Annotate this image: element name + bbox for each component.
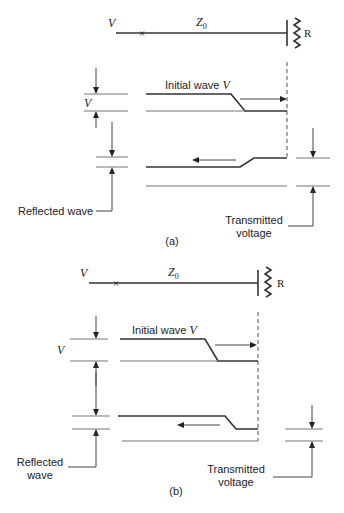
load-resistor-label: R xyxy=(277,277,285,289)
arrow-down-icon xyxy=(309,422,315,429)
arrow-down-icon xyxy=(93,87,99,94)
impedance-label: Z0 xyxy=(196,15,207,31)
transmitted-voltage-label-line2: voltage xyxy=(236,227,271,239)
resistor-icon xyxy=(294,18,300,48)
initial-wave-front xyxy=(120,339,258,361)
arrow-right-icon xyxy=(250,342,257,348)
reflected-leader-line xyxy=(96,172,112,211)
initial-wave-label: Initial wave V xyxy=(165,78,231,92)
v-magnitude-label: V xyxy=(84,96,93,110)
initial-wave-front xyxy=(146,94,287,111)
arrow-down-icon xyxy=(109,150,115,157)
initial-wave: Initial wave V xyxy=(146,78,287,111)
v-magnitude-label: V xyxy=(57,343,66,357)
reflected-wave-marker: Reflected wave xyxy=(18,122,128,217)
reflected-wave-label: Reflected wave xyxy=(18,205,93,217)
reflected-wave-label-line2: wave xyxy=(26,469,53,481)
transmitted-voltage-marker: Transmitted voltage xyxy=(225,128,330,239)
arrow-down-icon xyxy=(93,409,99,416)
source-voltage-label: V xyxy=(108,16,117,30)
arrow-up-icon xyxy=(93,111,99,118)
panel-caption-b: (b) xyxy=(169,485,182,497)
transmitted-voltage-marker: Transmitted voltage xyxy=(207,405,323,488)
resistor-icon xyxy=(265,267,271,297)
reflected-wave-marker: Reflected wave xyxy=(17,372,110,481)
transmission-line-b: V × Z0 R xyxy=(80,265,285,297)
impedance-label: Z0 xyxy=(168,265,179,281)
transmitted-voltage-label-line1: Transmitted xyxy=(207,463,265,475)
reflected-wave-front xyxy=(146,158,287,167)
panel-caption-a: (a) xyxy=(165,235,178,247)
initial-wave-label: Initial wave V xyxy=(132,323,198,337)
arrow-right-icon xyxy=(280,96,287,102)
transmitted-leader-line xyxy=(273,446,312,477)
travelling-wave-diagram: V × Z0 R V Initial wave V xyxy=(0,0,344,513)
reflected-leader-line xyxy=(68,434,96,467)
reflected-wave-label-line1: Reflected xyxy=(17,456,63,468)
transmitted-voltage-label-line1: Transmitted xyxy=(225,214,283,226)
reflected-wave xyxy=(146,157,287,186)
v-magnitude-marker: V xyxy=(57,316,108,386)
load-resistor-label: R xyxy=(304,27,312,39)
reflected-wave xyxy=(118,416,258,441)
source-voltage-label: V xyxy=(80,266,89,280)
arrow-left-icon xyxy=(177,422,184,428)
panel-a: V × Z0 R V Initial wave V xyxy=(18,15,330,247)
transmission-line-a: V × Z0 R xyxy=(108,15,312,48)
arrow-down-icon xyxy=(310,151,316,158)
initial-wave: Initial wave V xyxy=(120,323,258,361)
fault-marker-icon: × xyxy=(113,277,119,289)
arrow-down-icon xyxy=(93,332,99,339)
panel-b: V × Z0 R V Initial wave V xyxy=(17,265,323,497)
fault-marker-icon: × xyxy=(139,27,145,39)
reflected-wave-front xyxy=(118,416,258,429)
v-magnitude-marker: V xyxy=(84,68,128,128)
transmitted-leader-line xyxy=(288,191,313,226)
transmitted-voltage-label-line2: voltage xyxy=(218,476,253,488)
arrow-left-icon xyxy=(192,157,199,163)
